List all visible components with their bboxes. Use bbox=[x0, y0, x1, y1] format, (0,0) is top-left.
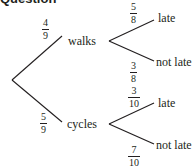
prob-cycles: 5 9 bbox=[40, 112, 47, 135]
branch-walks-not-late bbox=[109, 41, 154, 61]
node-cycles-not-late: not late bbox=[156, 139, 192, 151]
branch-walks bbox=[12, 36, 62, 80]
numerator: 3 bbox=[131, 86, 138, 96]
prob-walks-denominator: 9 bbox=[42, 31, 49, 41]
denominator: 8 bbox=[130, 74, 137, 84]
prob-cycles-numerator: 5 bbox=[40, 112, 47, 122]
branch-cycles-not-late bbox=[109, 124, 154, 144]
branch-cycles bbox=[12, 80, 62, 122]
prob-walks-late: 5 8 bbox=[130, 2, 137, 25]
prob-cycles-not-late: 7 10 bbox=[128, 145, 140, 167]
node-walks: walks bbox=[68, 35, 96, 47]
node-walks-late: late bbox=[158, 12, 175, 24]
numerator: 7 bbox=[131, 145, 138, 155]
denominator: 10 bbox=[128, 158, 140, 167]
prob-walks-not-late: 3 8 bbox=[130, 61, 137, 84]
prob-walks: 4 9 bbox=[42, 18, 49, 41]
node-walks-not-late: not late bbox=[156, 56, 192, 68]
numerator: 3 bbox=[130, 61, 137, 71]
node-cycles-late: late bbox=[158, 97, 175, 109]
denominator: 8 bbox=[130, 15, 137, 25]
numerator: 5 bbox=[130, 2, 137, 12]
denominator: 10 bbox=[128, 99, 140, 109]
prob-cycles-late: 3 10 bbox=[128, 86, 140, 109]
node-cycles: cycles bbox=[67, 118, 97, 130]
prob-cycles-denominator: 9 bbox=[40, 125, 47, 135]
prob-walks-numerator: 4 bbox=[42, 18, 49, 28]
